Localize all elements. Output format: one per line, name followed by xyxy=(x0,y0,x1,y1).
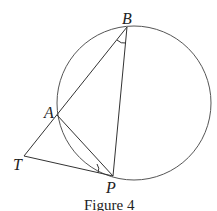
tangent-TP xyxy=(24,156,113,176)
angle-mark-B xyxy=(117,40,126,43)
figure-caption: Figure 4 xyxy=(84,197,135,211)
label-P: P xyxy=(105,179,116,196)
circle xyxy=(57,26,211,180)
label-B: B xyxy=(122,10,132,27)
label-T: T xyxy=(13,156,23,173)
secant-TB xyxy=(24,27,127,156)
label-A: A xyxy=(43,104,54,121)
geometry-figure: B A T P Figure 4 xyxy=(0,0,217,211)
chord-AP xyxy=(57,115,113,176)
angle-mark-P xyxy=(97,164,99,173)
chord-BP xyxy=(113,27,127,176)
